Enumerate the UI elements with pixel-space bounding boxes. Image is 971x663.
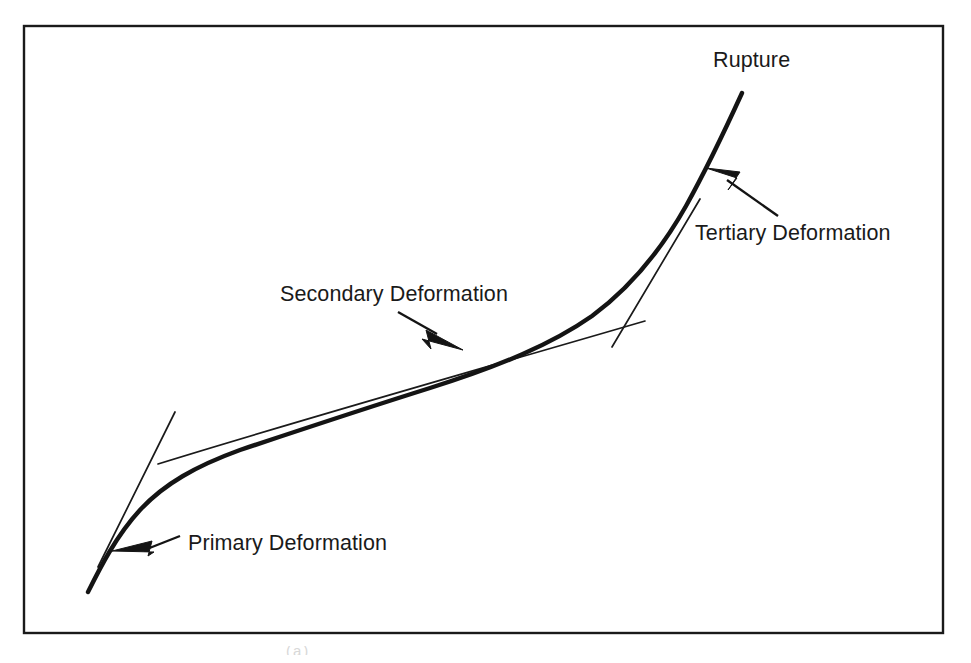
rupture-label: Rupture (713, 48, 790, 72)
tertiary-label: Tertiary Deformation (695, 221, 891, 245)
creep-curve-diagram: Rupture Tertiary Deformation Secondary D… (0, 0, 971, 663)
primary-label: Primary Deformation (188, 531, 387, 555)
cropped-caption: (a) (286, 646, 310, 655)
secondary-label: Secondary Deformation (280, 282, 508, 306)
figure-canvas: Rupture Tertiary Deformation Secondary D… (0, 0, 971, 663)
